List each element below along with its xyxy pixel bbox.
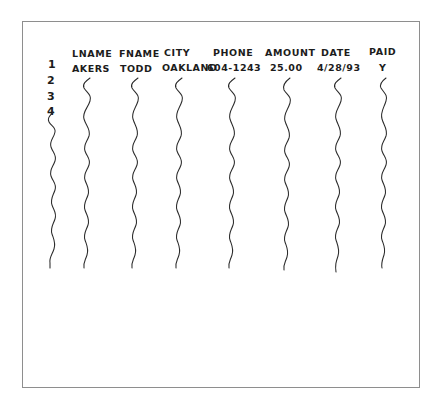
column-header-phone: PHONE [213,47,253,58]
squiggle-column-date [334,78,341,272]
row-number-4: 4 [47,105,55,118]
row-number-1: 1 [48,58,56,71]
column-header-city: CITY [164,47,190,58]
cell-paid: Y [378,62,386,73]
column-header-paid: PAID [369,46,396,57]
squiggle-column-lname [83,78,90,268]
row-number-2: 2 [47,74,55,87]
cell-fname: TODD [120,63,152,74]
column-header-lname: LNAME [72,48,112,59]
cell-amount: 25.00 [270,62,303,73]
row-number-3: 3 [47,90,55,103]
column-header-fname: FNAME [119,48,160,59]
cell-phone: 604-1243 [207,62,261,73]
sketch-canvas: 1 2 3 4 LNAME FNAME CITY PHONE AMOUNT DA… [0,0,441,411]
handwriting-layer: 1 2 3 4 LNAME FNAME CITY PHONE AMOUNT DA… [0,0,441,411]
cell-date: 4/28/93 [317,62,361,73]
squiggle-column-fname [131,78,138,268]
squiggle-rownumber-column [48,112,55,268]
column-header-amount: AMOUNT [265,47,316,58]
squiggle-column-city [175,78,182,268]
squiggle-column-amount [283,78,290,270]
cell-lname: AKERS [72,63,110,74]
column-header-date: DATE [321,47,351,58]
squiggle-column-paid [380,78,386,268]
squiggle-column-phone [228,78,235,268]
